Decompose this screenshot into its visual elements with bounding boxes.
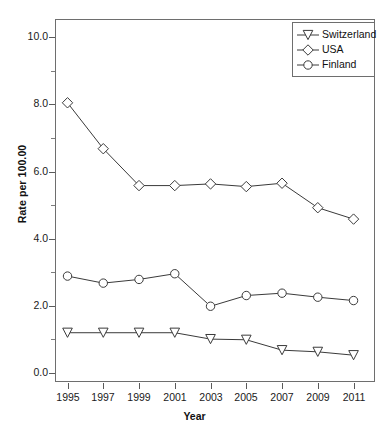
x-tick-major: [282, 383, 283, 389]
y-tick-major: [49, 172, 55, 173]
x-tick-major: [246, 383, 247, 389]
y-axis-title: Rate per 100.00: [16, 129, 28, 239]
diamond-icon: [296, 43, 320, 57]
legend-label: Switzerland: [320, 29, 376, 40]
y-tick-label: 8.0: [8, 98, 48, 109]
y-tick-major: [49, 373, 55, 374]
legend-label: USA: [320, 44, 344, 55]
x-tick-major: [68, 383, 69, 389]
x-tick-label: 2007: [262, 392, 302, 403]
legend-item-switzerland: Switzerland: [296, 27, 370, 42]
y-tick-major: [49, 306, 55, 307]
chart-figure: Rate per 100.00 Year SwitzerlandUSAFinla…: [0, 0, 389, 447]
y-tick-minor: [51, 205, 55, 206]
inverted-triangle-icon: [296, 28, 320, 42]
x-tick-label: 1997: [83, 392, 123, 403]
y-tick-minor: [51, 138, 55, 139]
y-tick-minor: [51, 71, 55, 72]
legend-item-usa: USA: [296, 42, 370, 57]
x-tick-label: 2001: [155, 392, 195, 403]
y-tick-label: 6.0: [8, 166, 48, 177]
y-tick-major: [49, 239, 55, 240]
legend-item-finland: Finland: [296, 57, 370, 72]
x-tick-major: [103, 383, 104, 389]
x-tick-label: 2009: [298, 392, 338, 403]
x-axis-title: Year: [0, 410, 389, 422]
y-tick-minor: [51, 272, 55, 273]
legend-label: Finland: [320, 59, 356, 70]
x-tick-major: [139, 383, 140, 389]
y-tick-label: 4.0: [8, 233, 48, 244]
y-tick-minor: [51, 339, 55, 340]
y-tick-label: 2.0: [8, 300, 48, 311]
y-tick-major: [49, 37, 55, 38]
x-tick-label: 1995: [48, 392, 88, 403]
x-tick-major: [211, 383, 212, 389]
y-tick-label: 10.0: [8, 31, 48, 42]
x-tick-label: 2005: [226, 392, 266, 403]
y-tick-label: 0.0: [8, 367, 48, 378]
y-tick-major: [49, 104, 55, 105]
x-tick-major: [354, 383, 355, 389]
x-tick-label: 1999: [119, 392, 159, 403]
x-tick-major: [318, 383, 319, 389]
x-tick-major: [175, 383, 176, 389]
x-tick-label: 2003: [191, 392, 231, 403]
x-tick-label: 2011: [334, 392, 374, 403]
circle-icon: [296, 58, 320, 72]
chart-legend: SwitzerlandUSAFinland: [292, 22, 375, 77]
